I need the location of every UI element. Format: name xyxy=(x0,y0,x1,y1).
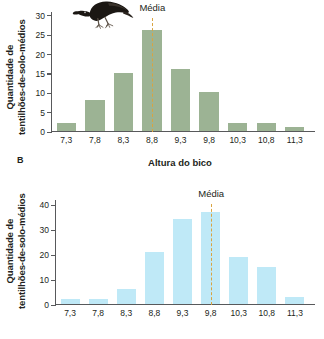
y-axis-title-bottom-line2: tentilhões-de-solo-médios xyxy=(16,193,28,309)
bar-slot: 8,3 xyxy=(112,200,140,304)
x-axis-title-top: Altura do bico xyxy=(51,157,309,168)
bar-slot: 10,8 xyxy=(252,12,281,131)
bar-slot: 11,3 xyxy=(281,12,310,131)
bar-slot: 10,3 xyxy=(225,200,253,304)
x-tick-label: 9,8 xyxy=(203,135,215,145)
bar xyxy=(257,123,276,131)
y-axis-title-top-line1: Quantidade de xyxy=(4,19,16,135)
x-tick-label: 8,8 xyxy=(148,308,160,318)
y-tick-label-top-1: 5 xyxy=(40,108,45,118)
bar-slot: 9,3 xyxy=(166,12,195,131)
y-tick-label-bottom-1: 10 xyxy=(40,275,49,285)
y-tick-label-bottom-2: 20 xyxy=(40,250,49,260)
mean-line-bottom xyxy=(211,204,212,305)
y-axis-title-top: Quantidade de tentilhões-de-solo-médios xyxy=(4,19,27,135)
x-tick-label: 9,3 xyxy=(175,135,187,145)
bar xyxy=(229,257,248,305)
y-axis-title-bottom-line1: Quantidade de xyxy=(4,193,16,309)
bar-group-bottom: 7,37,88,38,89,39,810,310,811,3 xyxy=(56,200,309,304)
bar xyxy=(285,127,304,131)
x-tick-label: 8,3 xyxy=(117,135,129,145)
y-tick-label-top-5: 25 xyxy=(36,30,45,40)
bar xyxy=(89,299,108,304)
x-tick-label: 10,3 xyxy=(229,135,246,145)
bar-slot: 9,8 xyxy=(195,12,224,131)
y-tick-label-top-0: 0 xyxy=(40,127,45,137)
bar xyxy=(199,92,218,131)
mean-label-top: Média xyxy=(139,2,165,13)
mean-label-bottom: Média xyxy=(198,188,224,199)
x-tick-label: 7,3 xyxy=(60,135,72,145)
mean-line-top xyxy=(152,18,153,132)
bar xyxy=(145,252,164,305)
x-tick-label: 9,8 xyxy=(205,308,217,318)
chart-panel-bottom: Quantidade de tentilhões-de-solo-médios … xyxy=(0,175,324,339)
x-tick-label: 11,3 xyxy=(287,135,303,145)
panel-letter-b: B xyxy=(17,155,24,165)
x-tick-label: 7,3 xyxy=(64,308,76,318)
y-tick-label-top-4: 20 xyxy=(36,50,45,60)
y-tick-label-bottom-3: 30 xyxy=(40,225,49,235)
bar-slot: 8,8 xyxy=(140,200,168,304)
bar xyxy=(285,297,304,305)
y-tick-top-0 xyxy=(47,132,52,133)
y-tick-label-top-2: 10 xyxy=(36,88,45,98)
x-tick-label: 9,3 xyxy=(177,308,189,318)
bar xyxy=(117,289,136,304)
bar xyxy=(61,299,80,304)
bar-slot: 10,3 xyxy=(223,12,252,131)
bar-slot: 8,3 xyxy=(109,12,138,131)
x-tick-label: 10,8 xyxy=(259,308,276,318)
bar-slot: 7,3 xyxy=(52,12,81,131)
bar-slot: 7,3 xyxy=(56,200,84,304)
bar-slot: 9,3 xyxy=(168,200,196,304)
plot-area-top: 0510152025307,37,88,38,89,39,810,310,811… xyxy=(51,12,309,132)
bar-slot: 7,8 xyxy=(81,12,110,131)
bar xyxy=(257,267,276,305)
plot-area-bottom: 0102030407,37,88,38,89,39,810,310,811,3 xyxy=(55,200,309,305)
bar xyxy=(171,69,190,131)
bar xyxy=(114,73,133,131)
bar xyxy=(57,123,76,131)
y-axis-title-top-line2: tentilhões-de-solo-médios xyxy=(16,19,28,135)
x-tick-label: 8,3 xyxy=(120,308,132,318)
y-tick-label-bottom-4: 40 xyxy=(40,200,49,210)
x-tick-label: 10,3 xyxy=(230,308,247,318)
y-tick-label-top-3: 15 xyxy=(36,69,45,79)
y-tick-label-top-6: 30 xyxy=(36,11,45,21)
y-tick-label-bottom-0: 0 xyxy=(44,300,49,310)
x-tick-label: 7,8 xyxy=(92,308,104,318)
bar-slot: 11,3 xyxy=(281,200,309,304)
y-tick-bottom-0 xyxy=(51,305,56,306)
bar xyxy=(85,100,104,131)
bar-slot: 7,8 xyxy=(84,200,112,304)
x-tick-label: 8,8 xyxy=(146,135,158,145)
x-tick-label: 11,3 xyxy=(287,308,303,318)
bar-group-top: 7,37,88,38,89,39,810,310,811,3 xyxy=(52,12,309,131)
bar xyxy=(228,123,247,131)
chart-panel-top: Quantidade de tentilhões-de-solo-médios … xyxy=(0,0,324,175)
y-axis-title-bottom: Quantidade de tentilhões-de-solo-médios xyxy=(4,193,27,309)
bar-slot: 10,8 xyxy=(253,200,281,304)
bar xyxy=(173,219,192,304)
x-tick-label: 10,8 xyxy=(258,135,275,145)
x-tick-label: 7,8 xyxy=(89,135,101,145)
